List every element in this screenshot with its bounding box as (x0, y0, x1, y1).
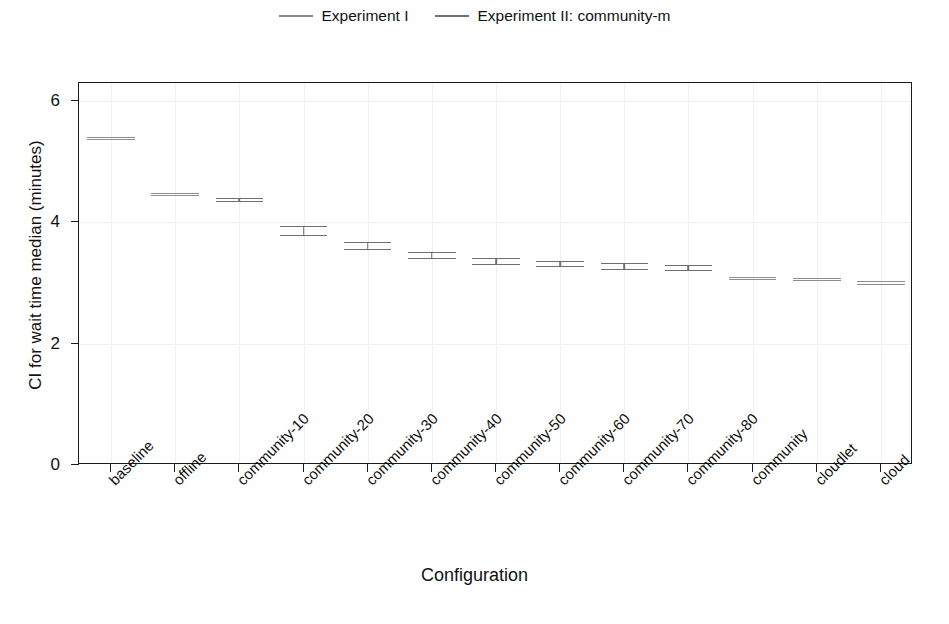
y-axis-tick-label: 0 (20, 455, 60, 475)
legend-entry-experiment-1: Experiment I (279, 8, 409, 24)
legend-label-experiment-2: Experiment II: community-m (478, 8, 671, 24)
ci-mark (793, 83, 840, 463)
y-axis-tick (71, 464, 79, 465)
ci-stem (559, 261, 561, 266)
ci-lower-bound (729, 279, 776, 280)
ci-lower-bound (472, 264, 519, 265)
ci-mark (280, 83, 327, 463)
ci-mark (408, 83, 455, 463)
ci-stem (239, 198, 241, 202)
ci-mark (601, 83, 648, 463)
ci-lower-bound (665, 270, 712, 271)
ci-mark (151, 83, 198, 463)
y-axis-tick-label: 4 (20, 212, 60, 232)
ci-mark (857, 83, 904, 463)
ci-stem (624, 263, 626, 268)
ci-lower-bound (151, 195, 198, 196)
ci-upper-bound (87, 137, 134, 138)
ci-upper-bound (151, 193, 198, 194)
ci-lower-bound (216, 201, 263, 202)
ci-upper-bound (729, 277, 776, 278)
legend-label-experiment-1: Experiment I (322, 8, 409, 24)
y-axis-tick-label: 6 (20, 91, 60, 111)
ci-stem (303, 226, 305, 235)
x-axis-title: Configuration (0, 565, 949, 586)
ci-stem (367, 242, 369, 249)
ci-mark (472, 83, 519, 463)
chart-figure: Experiment I Experiment II: community-m … (0, 0, 949, 624)
ci-lower-bound (87, 139, 134, 140)
ci-stem (688, 265, 690, 270)
chart-legend: Experiment I Experiment II: community-m (0, 8, 949, 24)
ci-lower-bound (280, 235, 327, 236)
ci-upper-bound (857, 281, 904, 282)
ci-lower-bound (408, 258, 455, 259)
y-axis-title: CI for wait time median (minutes) (26, 65, 46, 465)
ci-mark (665, 83, 712, 463)
legend-entry-experiment-2: Experiment II: community-m (435, 8, 671, 24)
y-axis-tick-label: 2 (20, 334, 60, 354)
ci-mark (536, 83, 583, 463)
plot-area (78, 82, 912, 464)
ci-lower-bound (344, 249, 391, 250)
plot-canvas (79, 83, 911, 463)
ci-lower-bound (857, 284, 904, 285)
ci-upper-bound (793, 278, 840, 279)
ci-mark (344, 83, 391, 463)
legend-line-icon (435, 15, 469, 17)
ci-lower-bound (793, 280, 840, 281)
legend-line-icon (279, 15, 313, 17)
ci-mark (729, 83, 776, 463)
ci-lower-bound (601, 269, 648, 270)
ci-lower-bound (536, 266, 583, 267)
ci-mark (216, 83, 263, 463)
ci-stem (495, 258, 497, 263)
ci-stem (431, 252, 433, 258)
ci-mark (87, 83, 134, 463)
